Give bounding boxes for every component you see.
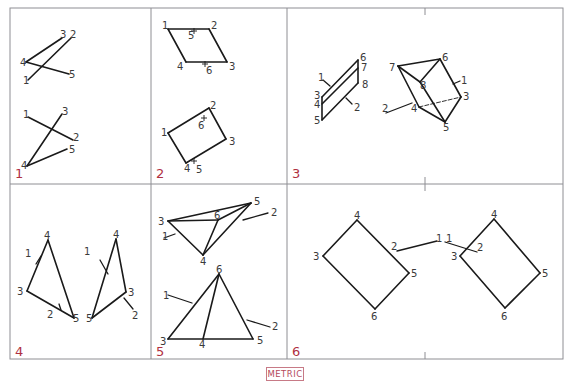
point-label: 3 (128, 287, 134, 298)
edge-line (203, 220, 218, 255)
point-label: 4 (354, 210, 360, 221)
edge-line (26, 62, 69, 74)
point-label: 5 (257, 335, 263, 346)
point-label: 2 (73, 132, 79, 143)
panel-4-view-1 (27, 240, 74, 318)
point-label: 3 (62, 106, 68, 117)
panels: 3245113254112546326134526718342576183245… (15, 20, 548, 359)
point-label: 4 (184, 163, 190, 174)
edge-line (168, 203, 251, 221)
panel-number: 3 (292, 166, 300, 181)
point-label: 3 (60, 29, 66, 40)
point-label: 4 (44, 230, 50, 241)
point-label: 1 (446, 233, 452, 244)
point-label: 2 (211, 20, 217, 31)
panel-6-view-1 (323, 220, 437, 309)
leader-line (243, 213, 268, 220)
point-label: 4 (113, 229, 119, 240)
point-label: 2 (272, 321, 278, 332)
panel-2-view-2 (168, 108, 226, 164)
panel-2: 1254632613452 (156, 20, 235, 181)
panel-1-view-2 (27, 114, 73, 166)
edge-line (168, 29, 186, 62)
point-label: 5 (73, 313, 79, 324)
point-label: 2 (391, 241, 397, 252)
metric-badge: METRIC (266, 367, 304, 381)
point-label: 2 (210, 100, 216, 111)
panel-6-view-2 (445, 219, 540, 308)
panel-4: 41325413254 (15, 229, 138, 359)
edge-line (323, 256, 375, 309)
point-label: 6 (198, 120, 204, 131)
point-label: 3 (313, 251, 319, 262)
point-label: 2 (271, 207, 277, 218)
edge-line (186, 139, 226, 163)
edge-line (168, 133, 186, 163)
leader-line (346, 98, 352, 104)
point-label: 6 (501, 311, 507, 322)
edge-line (209, 29, 227, 62)
point-label: 8 (420, 80, 426, 91)
point-label: 1 (162, 231, 168, 242)
edge-line (357, 220, 409, 273)
point-label: 1 (25, 248, 31, 259)
edge-line (116, 239, 126, 292)
point-label: 1 (436, 233, 442, 244)
panel-grid (10, 8, 563, 359)
edge-line (28, 117, 73, 140)
panel-6: 4235611423566 (292, 209, 548, 359)
edge-line (505, 273, 540, 308)
point-label: 5 (411, 268, 417, 279)
point-label: 1 (161, 127, 167, 138)
point-label: 6 (371, 311, 377, 322)
orthographic-views-figure: 3245113254112546326134526718342576183245… (0, 0, 571, 389)
point-label: 1 (461, 75, 467, 86)
panel-number: 5 (156, 344, 164, 359)
edge-line (322, 83, 358, 120)
edge-line (92, 239, 116, 318)
point-label: 6 (214, 210, 220, 221)
point-label: 6 (206, 65, 212, 76)
panel-number: 2 (156, 166, 164, 181)
point-label: 2 (354, 102, 360, 113)
point-label: 3 (229, 61, 235, 72)
point-label: 5 (86, 313, 92, 324)
point-label: 3 (158, 216, 164, 227)
point-label: 4 (200, 256, 206, 267)
panel-3: 67183425761832453 (292, 52, 469, 181)
point-label: 1 (162, 20, 168, 31)
point-label: 4 (20, 57, 26, 68)
edge-line (460, 256, 505, 308)
edge-line (48, 240, 74, 318)
panel-4-view-2 (92, 239, 133, 318)
point-label: 5 (196, 164, 202, 175)
point-label: 5 (254, 196, 260, 207)
edge-line (168, 221, 203, 255)
leader-line (124, 298, 133, 309)
edge-line (322, 60, 358, 97)
point-label: 1 (318, 72, 324, 83)
point-label: 3 (463, 91, 469, 102)
point-label: 5 (69, 69, 75, 80)
point-label: 3 (17, 286, 23, 297)
panel-5-view-2 (168, 274, 270, 339)
point-label: 1 (23, 75, 29, 86)
point-label: 5 (443, 122, 449, 133)
point-label: 3 (229, 136, 235, 147)
panel-number: 4 (15, 344, 23, 359)
point-label: 2 (132, 310, 138, 321)
edge-line (494, 219, 540, 273)
panel-number: 1 (15, 166, 23, 181)
edge-line (26, 38, 62, 62)
point-label: 5 (188, 30, 194, 41)
point-label: 2 (477, 242, 483, 253)
panel-1: 32451132541 (15, 29, 79, 181)
panel-1-view-1 (26, 38, 71, 80)
point-label: 1 (23, 109, 29, 120)
point-label: 2 (47, 309, 53, 320)
panel-3-view-1 (322, 60, 358, 120)
point-label: 6 (216, 264, 222, 275)
point-label: 2 (70, 29, 76, 40)
edge-line (445, 97, 461, 122)
point-label: 7 (361, 62, 367, 73)
